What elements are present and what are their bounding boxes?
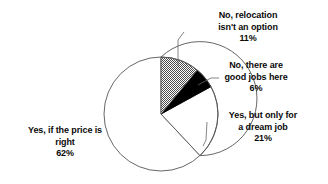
pie-label-good-jobs-percent: 6% <box>196 83 316 95</box>
pie-label-dream-job-line2: a dream job <box>202 122 324 134</box>
pie-label-dream-job-percent: 21% <box>202 133 324 145</box>
pie-label-good-jobs-line1: No, there are <box>196 60 316 72</box>
pie-label-good-jobs-line2: good jobs here <box>196 72 316 84</box>
pie-label-dream-job-line1: Yes, but only for <box>202 110 324 122</box>
pie-label-relocation-line2: isn't an option <box>186 22 310 34</box>
pie-label-dream-job: Yes, but only for a dream job 21% <box>202 110 324 145</box>
pie-label-price-right: Yes, if the price is right 62% <box>2 125 128 160</box>
pie-chart-page: No, relocation isn't an option 11% No, t… <box>0 0 328 184</box>
pie-label-relocation-percent: 11% <box>186 33 310 45</box>
pie-label-good-jobs: No, there are good jobs here 6% <box>196 60 316 95</box>
pie-label-price-right-percent: 62% <box>2 148 128 160</box>
pie-label-price-right-line2: right <box>2 137 128 149</box>
pie-label-price-right-line1: Yes, if the price is <box>2 125 128 137</box>
pie-label-relocation: No, relocation isn't an option 11% <box>186 10 310 45</box>
pie-label-relocation-line1: No, relocation <box>186 10 310 22</box>
